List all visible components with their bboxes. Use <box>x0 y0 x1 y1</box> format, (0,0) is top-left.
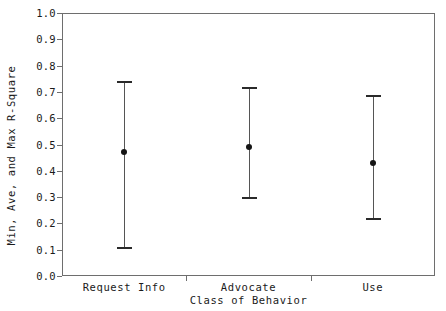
y-axis-tick-label: 0.2 <box>22 218 56 228</box>
y-axis-tick-mark <box>57 13 62 14</box>
errorbar-chart: Min, Ave, and Max R-Square 1.00.90.80.70… <box>0 0 446 311</box>
errorbar-min-cap <box>117 247 132 249</box>
y-axis-title: Min, Ave, and Max R-Square <box>0 0 22 311</box>
errorbar-max-cap <box>117 81 132 83</box>
y-axis-tick-label: 0.8 <box>22 61 56 71</box>
y-axis-tick-label: 0.3 <box>22 192 56 202</box>
errorbar-max-cap <box>242 87 257 89</box>
errorbar-mean-marker <box>370 160 376 166</box>
y-axis-tick-mark <box>57 39 62 40</box>
x-axis-tick-label: Advocate <box>221 281 276 293</box>
x-axis-tick-mark <box>311 276 312 281</box>
errorbar-line <box>124 81 125 247</box>
x-axis-tick-mark <box>186 276 187 281</box>
errorbar-line <box>249 87 250 197</box>
errorbar-line <box>373 95 374 219</box>
y-axis-tick-mark <box>57 118 62 119</box>
y-axis-tick-label: 0.6 <box>22 113 56 123</box>
x-axis-title: Class of Behavior <box>62 294 435 306</box>
y-axis-tick-mark <box>57 171 62 172</box>
y-axis-tick-label: 1.0 <box>22 8 56 18</box>
y-axis-tick-mark <box>57 145 62 146</box>
errorbar-min-cap <box>242 197 257 199</box>
y-axis-tick-mark <box>57 197 62 198</box>
errorbar-mean-marker <box>246 144 252 150</box>
y-axis-tick-labels: 1.00.90.80.70.60.50.40.30.20.10.0 <box>22 0 56 311</box>
x-axis-tick-label: Use <box>362 281 383 293</box>
y-axis-tick-label: 0.1 <box>22 245 56 255</box>
y-axis-tick-mark <box>57 92 62 93</box>
y-axis-tick-label: 0.0 <box>22 271 56 281</box>
y-axis-tick-mark <box>57 250 62 251</box>
y-axis-tick-mark <box>57 66 62 67</box>
y-axis-tick-mark <box>57 276 62 277</box>
errorbar-min-cap <box>366 218 381 220</box>
y-axis-tick-label: 0.9 <box>22 34 56 44</box>
y-axis-tick-label: 0.7 <box>22 87 56 97</box>
x-axis-tick-label: Request Info <box>83 281 166 293</box>
errorbar-max-cap <box>366 95 381 97</box>
y-axis-tick-label: 0.5 <box>22 140 56 150</box>
y-axis-tick-label: 0.4 <box>22 166 56 176</box>
y-axis-tick-mark <box>57 223 62 224</box>
